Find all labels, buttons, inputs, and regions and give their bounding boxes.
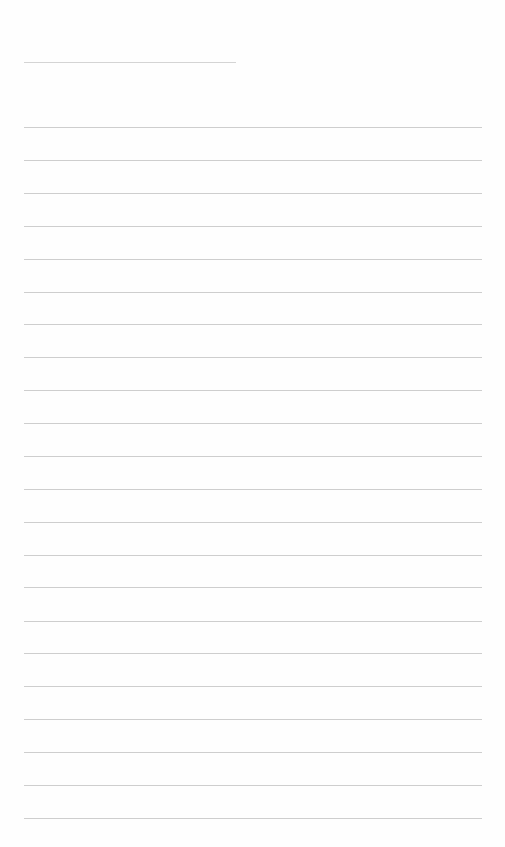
- ruled-line: [24, 653, 482, 654]
- ruled-line: [24, 324, 482, 325]
- ruled-line: [24, 489, 482, 490]
- ruled-line: [24, 621, 482, 622]
- header-rule: [24, 62, 236, 63]
- ruled-line: [24, 522, 482, 523]
- ruled-line: [24, 686, 482, 687]
- ruled-line: [24, 818, 482, 819]
- ruled-line: [24, 719, 482, 720]
- ruled-line: [24, 193, 482, 194]
- ruled-line: [24, 456, 482, 457]
- ruled-line: [24, 785, 482, 786]
- ruled-line: [24, 357, 482, 358]
- ruled-line: [24, 292, 482, 293]
- ruled-line: [24, 555, 482, 556]
- ruled-line: [24, 423, 482, 424]
- ruled-line: [24, 127, 482, 128]
- ruled-line: [24, 160, 482, 161]
- ruled-line: [24, 390, 482, 391]
- ruled-line: [24, 259, 482, 260]
- lined-page: [0, 0, 505, 847]
- ruled-line: [24, 752, 482, 753]
- ruled-line: [24, 587, 482, 588]
- ruled-line: [24, 226, 482, 227]
